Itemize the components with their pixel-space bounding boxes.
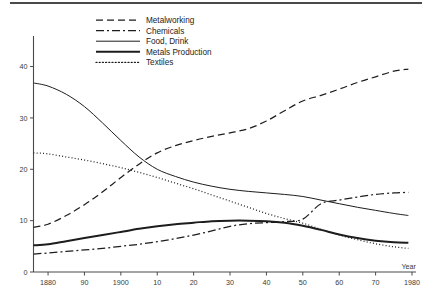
legend-item-metalworking: Metalworking <box>96 16 195 25</box>
line-chart-plot: 0102030401880901900102030405060701980Yea… <box>0 0 429 303</box>
y-tick-label: 40 <box>20 62 28 71</box>
legend-label: Chemicals <box>146 27 184 36</box>
y-tick-label: 20 <box>20 165 28 174</box>
x-tick-label: 1880 <box>40 278 56 287</box>
legend-item-food-drink: Food, Drink <box>96 37 189 46</box>
legend-label: Textiles <box>146 58 173 67</box>
x-tick-label: 1980 <box>404 278 420 287</box>
legend-item-metals-production: Metals Production <box>96 48 212 57</box>
y-tick-label: 10 <box>20 216 28 225</box>
legend-label: Metals Production <box>146 48 212 57</box>
y-tick-label: 30 <box>20 114 28 123</box>
x-tick-label: 10 <box>153 278 161 287</box>
legend-item-chemicals: Chemicals <box>96 27 184 36</box>
x-tick-label: 30 <box>226 278 234 287</box>
series-line-chemicals <box>34 192 409 254</box>
x-tick-label: 70 <box>372 278 380 287</box>
y-tick-label: 0 <box>24 268 28 277</box>
x-tick-label: 20 <box>190 278 198 287</box>
x-tick-label: 40 <box>262 278 270 287</box>
legend-label: Metalworking <box>146 16 195 25</box>
x-tick-label: 50 <box>299 278 307 287</box>
x-tick-label: 60 <box>335 278 343 287</box>
x-axis-title: Year <box>401 262 416 271</box>
series-line-textiles <box>34 153 409 249</box>
x-tick-label: 90 <box>80 278 88 287</box>
legend-label: Food, Drink <box>146 37 189 46</box>
chart-figure: 0102030401880901900102030405060701980Yea… <box>0 0 429 303</box>
series-line-food-drink <box>34 83 409 216</box>
legend-item-textiles: Textiles <box>96 58 173 67</box>
series-line-metalworking <box>34 69 409 227</box>
series-line-metals-production <box>34 221 409 246</box>
x-tick-label: 1900 <box>113 278 129 287</box>
